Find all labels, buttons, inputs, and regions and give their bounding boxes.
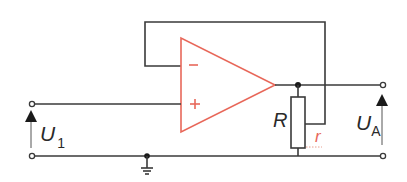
ground-icon [141, 156, 153, 174]
output-voltage-label: UA [356, 111, 381, 139]
output-line [275, 82, 386, 88]
output-ground-terminal [380, 153, 385, 158]
output-terminal [380, 82, 385, 87]
op-amp [181, 38, 275, 132]
input-terminal [29, 101, 34, 106]
input-voltage-label: U1 [40, 122, 65, 151]
ground-line [29, 153, 385, 159]
input-line [29, 101, 181, 106]
feedback-loop [145, 22, 325, 124]
circuit-diagram: U1 UA R r [0, 0, 407, 182]
wiper-label: r [315, 127, 322, 146]
resistor-label: R [273, 109, 287, 131]
input-ground-terminal [29, 153, 34, 158]
input-voltage-arrow-icon [25, 110, 37, 148]
